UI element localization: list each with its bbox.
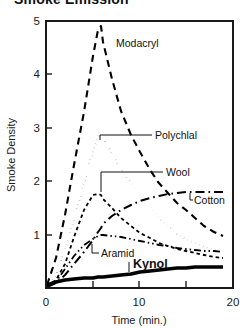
smoke-emission-figure: Smoke Emission: [0, 0, 249, 328]
series-line-modacryl: [47, 26, 223, 285]
x-tick-label-20: 20: [227, 296, 240, 308]
y-tick-label-3: 3: [34, 122, 40, 134]
leader-line-aramid: [92, 244, 99, 253]
plot-frame: [46, 21, 233, 288]
y-tick-label-0: 0: [43, 296, 49, 308]
series-label-polychlal: Polychlal: [155, 129, 197, 141]
series-label-modacryl: Modacryl: [116, 37, 159, 49]
chart-plot-area: 5 4 3 2 1 0 10 20 Smoke Density Time (mi…: [0, 0, 249, 328]
series-label-cotton: Cotton: [194, 194, 225, 206]
leader-line-polychlal: [100, 135, 152, 140]
y-tick-label-1: 1: [34, 229, 40, 241]
y-axis-label: Smoke Density: [5, 118, 17, 192]
series-label-wool: Wool: [166, 166, 190, 178]
y-tick-label-2: 2: [34, 175, 40, 187]
x-tickmarks: [46, 281, 233, 288]
x-axis-label: Time (min.): [111, 314, 166, 326]
x-tick-label-10: 10: [133, 296, 146, 308]
series-label-kynol: Kynol: [133, 257, 168, 271]
series-group: [47, 26, 223, 287]
leader-line-cotton: [190, 193, 193, 200]
series-label-aramid: Aramid: [101, 247, 134, 259]
y-tick-label-5: 5: [34, 15, 40, 27]
y-tick-label-4: 4: [34, 68, 41, 80]
